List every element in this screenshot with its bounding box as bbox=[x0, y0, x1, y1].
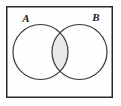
set-label-b: B bbox=[91, 11, 99, 23]
venn-diagram-figure: A B bbox=[0, 0, 121, 106]
venn-diagram-canvas: A B bbox=[0, 0, 121, 106]
set-label-a: A bbox=[21, 12, 29, 24]
